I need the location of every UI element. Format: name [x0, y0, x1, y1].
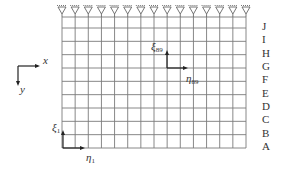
row-label-I: I	[262, 34, 266, 45]
row-label-G: G	[262, 61, 270, 72]
local-axes-89-icon	[165, 50, 188, 70]
pinned-support-icon	[71, 7, 79, 14]
subscript: 1	[91, 157, 95, 165]
row-label-C: C	[262, 114, 269, 125]
row-label-F: F	[262, 74, 268, 85]
pinned-support-icon	[97, 7, 105, 14]
subscript: 89	[156, 46, 163, 54]
pinned-support-icon	[216, 7, 224, 14]
x-axis-label: x	[43, 55, 48, 66]
grid-lines	[62, 17, 246, 148]
pinned-support-icon	[189, 7, 197, 14]
row-label-E: E	[262, 88, 269, 99]
subscript: 1	[57, 127, 61, 135]
row-label-H: H	[262, 48, 270, 59]
row-label-A: A	[262, 141, 270, 152]
pinned-support-icon	[176, 7, 184, 14]
xi-89-label: ξ89	[151, 41, 163, 56]
subscript: 89	[191, 78, 198, 86]
xi-1-label: ξ1	[52, 122, 60, 137]
pinned-support-icon	[203, 7, 211, 14]
y-axis-label: y	[20, 84, 25, 95]
local-axes-1-icon	[61, 130, 85, 150]
row-label-J: J	[262, 21, 266, 32]
eta-1-label: η1	[86, 152, 95, 167]
pinned-support-icon	[58, 7, 66, 14]
pinned-support-icon	[111, 7, 119, 14]
pinned-support-icon	[242, 7, 250, 14]
pinned-support-icon	[137, 7, 145, 14]
eta-89-label: η89	[186, 73, 198, 88]
row-label-B: B	[262, 128, 269, 139]
grid-diagram: x y ξ1 η1 ξ89 η89 JIHGFEDCBA	[0, 0, 286, 169]
pinned-support-icon	[229, 7, 237, 14]
pinned-supports	[57, 6, 251, 18]
pinned-support-icon	[163, 7, 171, 14]
pinned-support-icon	[150, 7, 158, 14]
row-label-D: D	[262, 101, 270, 112]
grid-svg	[0, 0, 286, 169]
pinned-support-icon	[84, 7, 92, 14]
pinned-support-icon	[124, 7, 132, 14]
